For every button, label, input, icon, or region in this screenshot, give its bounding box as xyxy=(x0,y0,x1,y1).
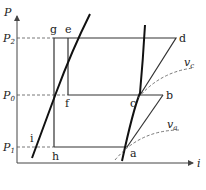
point-h-label: h xyxy=(52,150,59,163)
point-i-label: i xyxy=(30,132,34,145)
saturated-liquid-line xyxy=(32,14,90,158)
p2-label: P2 xyxy=(2,32,15,46)
p0-label: P0 xyxy=(2,89,15,103)
vc-label: vc xyxy=(184,56,194,70)
point-d-label: d xyxy=(179,32,186,45)
point-b-label: b xyxy=(166,89,173,102)
point-f-label: f xyxy=(65,97,70,110)
va-label: va xyxy=(167,118,177,132)
point-a-label: a xyxy=(130,147,137,160)
p1-label: P1 xyxy=(2,141,15,155)
point-e-label: e xyxy=(65,23,72,36)
x-axis-label: i xyxy=(197,157,201,170)
point-c-label: c xyxy=(130,97,136,110)
ph-diagram: P i P2 P0 P1 vc va g e d f c b i h a xyxy=(0,0,206,190)
point-g-label: g xyxy=(50,23,57,36)
y-axis-label: P xyxy=(3,6,12,19)
